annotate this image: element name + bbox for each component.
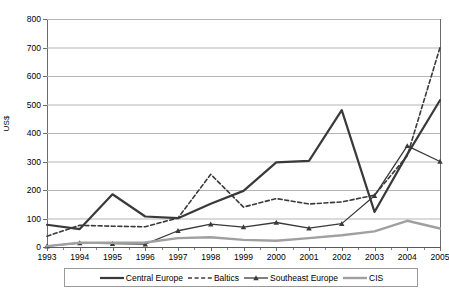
x-tick-mark bbox=[407, 248, 408, 251]
y-tick-mark bbox=[43, 19, 47, 20]
series-line-southeast-europe bbox=[47, 146, 440, 246]
x-minor-tick-mark bbox=[358, 248, 359, 250]
legend-swatch-solid-dark bbox=[99, 273, 125, 283]
y-axis-label: US$ bbox=[0, 0, 14, 247]
y-tick-mark bbox=[43, 133, 47, 134]
y-axis-tick-100: 100 bbox=[27, 214, 41, 224]
x-minor-tick-mark bbox=[260, 248, 261, 250]
x-tick-mark bbox=[342, 248, 343, 251]
legend-label: Baltics bbox=[213, 273, 239, 283]
legend-item-cis[interactable]: CIS bbox=[342, 273, 383, 283]
x-axis-tick-1999: 1999 bbox=[234, 252, 253, 262]
x-axis-tick-1997: 1997 bbox=[169, 252, 188, 262]
y-axis-tick-200: 200 bbox=[27, 185, 41, 195]
x-minor-tick-mark bbox=[293, 248, 294, 250]
y-tick-mark bbox=[43, 105, 47, 106]
plot-area bbox=[47, 19, 440, 247]
legend-label: CIS bbox=[368, 273, 383, 283]
legend-item-southeast-europe[interactable]: Southeast Europe bbox=[243, 273, 338, 283]
series-marker-southeast-europe bbox=[405, 143, 410, 148]
x-tick-mark bbox=[276, 248, 277, 251]
x-minor-tick-mark bbox=[325, 248, 326, 250]
x-minor-tick-mark bbox=[162, 248, 163, 250]
x-tick-mark bbox=[440, 248, 441, 251]
y-axis-tick-300: 300 bbox=[27, 157, 41, 167]
x-axis-tick-2001: 2001 bbox=[300, 252, 319, 262]
legend-swatch-solid-triangle bbox=[243, 273, 269, 283]
y-axis-tick-800: 800 bbox=[27, 14, 41, 24]
x-axis-tick-1994: 1994 bbox=[70, 252, 89, 262]
legend-item-baltics[interactable]: Baltics bbox=[187, 273, 239, 283]
legend-swatch-solid-gray bbox=[342, 273, 368, 283]
x-tick-mark bbox=[80, 248, 81, 251]
x-axis-tick-1996: 1996 bbox=[136, 252, 155, 262]
y-axis-tick-labels: 0100200300400500600700800 bbox=[14, 0, 44, 260]
x-tick-mark bbox=[145, 248, 146, 251]
plot-right-border bbox=[440, 19, 441, 248]
legend-swatch-dashed bbox=[187, 273, 213, 283]
y-axis-label-text: US$ bbox=[3, 116, 12, 132]
x-minor-tick-mark bbox=[194, 248, 195, 250]
series-line-baltics bbox=[47, 48, 440, 237]
x-axis-tick-1995: 1995 bbox=[103, 252, 122, 262]
y-tick-mark bbox=[43, 190, 47, 191]
x-axis-tick-2005: 2005 bbox=[431, 252, 449, 262]
x-axis-tick-2004: 2004 bbox=[398, 252, 417, 262]
x-minor-tick-mark bbox=[63, 248, 64, 250]
y-axis-tick-0: 0 bbox=[36, 242, 41, 252]
x-axis-tick-2002: 2002 bbox=[332, 252, 351, 262]
data-series-layer bbox=[47, 19, 440, 248]
x-tick-mark bbox=[375, 248, 376, 251]
x-minor-tick-mark bbox=[129, 248, 130, 250]
x-axis-tick-1998: 1998 bbox=[201, 252, 220, 262]
y-tick-mark bbox=[43, 48, 47, 49]
y-tick-mark bbox=[43, 162, 47, 163]
x-minor-tick-mark bbox=[391, 248, 392, 250]
x-tick-mark bbox=[309, 248, 310, 251]
y-axis-tick-500: 500 bbox=[27, 100, 41, 110]
y-axis-tick-600: 600 bbox=[27, 71, 41, 81]
x-tick-mark bbox=[211, 248, 212, 251]
x-tick-mark bbox=[113, 248, 114, 251]
x-tick-mark bbox=[178, 248, 179, 251]
x-tick-mark bbox=[244, 248, 245, 251]
legend-label: Southeast Europe bbox=[269, 273, 338, 283]
x-axis-tick-2003: 2003 bbox=[365, 252, 384, 262]
y-tick-mark bbox=[43, 76, 47, 77]
x-axis-tick-2000: 2000 bbox=[267, 252, 286, 262]
legend-item-central-europe[interactable]: Central Europe bbox=[99, 273, 183, 283]
x-axis-tick-labels: 1993199419951996199719981999200020012002… bbox=[0, 252, 447, 266]
y-tick-mark bbox=[43, 219, 47, 220]
x-tick-mark bbox=[47, 248, 48, 251]
x-minor-tick-mark bbox=[227, 248, 228, 250]
x-minor-tick-mark bbox=[96, 248, 97, 250]
y-axis-tick-700: 700 bbox=[27, 43, 41, 53]
chart-legend: Central EuropeBalticsSoutheast EuropeCIS bbox=[64, 268, 418, 287]
x-minor-tick-mark bbox=[424, 248, 425, 250]
series-line-central-europe bbox=[47, 100, 440, 229]
legend-label: Central Europe bbox=[125, 273, 183, 283]
y-axis-tick-400: 400 bbox=[27, 128, 41, 138]
x-axis-tick-1993: 1993 bbox=[38, 252, 57, 262]
